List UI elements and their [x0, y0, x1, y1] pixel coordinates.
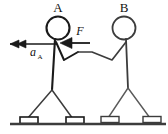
person-b-head — [113, 17, 136, 40]
acceleration-label: a — [30, 45, 36, 59]
acceleration-subscript-label: A — [37, 53, 42, 61]
physics-diagram-container: A B F a A — [0, 0, 168, 134]
skate-a-left — [20, 117, 38, 124]
skate-b-left — [101, 117, 119, 123]
force-label: F — [75, 24, 84, 38]
person-a-head — [47, 17, 70, 40]
diagram-background — [0, 0, 168, 134]
skate-b-right — [143, 117, 161, 123]
person-b-label: B — [120, 0, 129, 15]
skate-a-right — [66, 117, 84, 124]
physics-diagram: A B F a A — [0, 0, 168, 134]
person-a-label: A — [53, 0, 63, 15]
